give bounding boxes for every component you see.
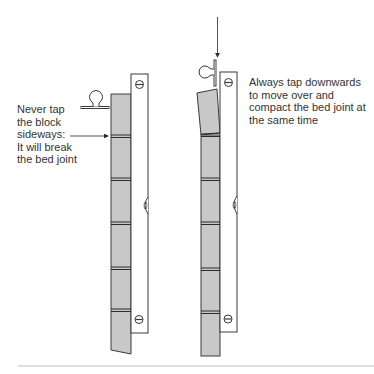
right-caption-line: the same time: [249, 114, 366, 127]
right-caption: Always tap downwards to move over and co…: [249, 76, 366, 126]
left-level-top-screw-icon: [136, 81, 144, 89]
left-caption-line: It will break: [17, 141, 77, 154]
left-caption-line: the bed joint: [17, 153, 77, 166]
right-tilted-block: [197, 89, 220, 135]
left-caption: Never tap the block sideways: It will br…: [17, 103, 77, 166]
left-block-column: [111, 94, 131, 354]
left-panel: [70, 74, 148, 354]
left-spirit-level: [131, 74, 148, 333]
left-caption-line: Never tap: [17, 103, 77, 116]
right-trowel-handle-icon: [199, 60, 216, 86]
left-caption-line: the block: [17, 116, 77, 129]
right-spirit-level: [220, 72, 237, 332]
right-panel: [197, 17, 237, 356]
right-block-column: [201, 133, 220, 356]
right-caption-line: to move over and: [249, 89, 366, 102]
left-level-bottom-screw-icon: [135, 316, 143, 324]
right-level-top-screw-icon: [225, 79, 233, 87]
left-caption-line: sideways:: [17, 128, 77, 141]
right-level-bottom-screw-icon: [224, 315, 232, 323]
right-caption-line: Always tap downwards: [249, 76, 366, 89]
left-trowel-handle-icon: [81, 91, 109, 109]
right-caption-line: compact the bed joint at: [249, 101, 366, 114]
right-block-stack: [201, 135, 220, 356]
masonry-tapping-diagram: [0, 0, 374, 374]
